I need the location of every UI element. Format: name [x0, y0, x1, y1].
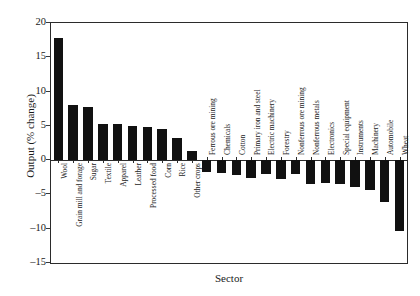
bar[interactable]: [83, 107, 92, 160]
bar-slot: [155, 23, 170, 263]
x-axis-category-label: Ferrous ore mining: [209, 98, 216, 155]
bar[interactable]: [276, 160, 285, 179]
x-axis-category-label: Rice: [179, 163, 186, 177]
x-axis-tick-mark: [311, 157, 312, 160]
y-axis-tick-labels: 20151050–5–10–15: [18, 0, 46, 296]
x-axis-category-label: Sugar: [90, 163, 97, 180]
x-axis-tick-mark: [296, 157, 297, 160]
y-axis-tick-mark: [46, 193, 50, 194]
x-axis-category-label: Machinery: [372, 123, 379, 155]
x-axis-category-label: Cotton: [239, 135, 246, 155]
x-axis-title: Sector: [50, 272, 408, 284]
y-axis-tick-mark: [46, 159, 50, 160]
x-axis-category-label: Processed food: [150, 163, 157, 208]
bar[interactable]: [128, 126, 137, 160]
x-axis-tick-mark: [236, 157, 237, 160]
chart-figure: Output (% change) 20151050–5–10–15 Secto…: [0, 0, 420, 296]
x-axis-category-label: Forestry: [283, 131, 290, 156]
y-axis-tick-mark: [46, 125, 50, 126]
y-axis-tick-mark: [46, 91, 50, 92]
y-axis-tick-mark: [46, 262, 50, 263]
x-axis-category-label: Leather: [135, 163, 142, 186]
x-axis-tick-mark: [385, 157, 386, 160]
bar-slot: [170, 23, 185, 263]
bar[interactable]: [261, 160, 270, 174]
x-axis-category-label: Apparel: [120, 163, 127, 187]
bar[interactable]: [54, 38, 63, 160]
x-axis-category-label: Corn: [165, 163, 172, 178]
x-axis-tick-mark: [325, 157, 326, 160]
bar[interactable]: [157, 129, 166, 161]
bar[interactable]: [365, 160, 374, 189]
bar-slot: [81, 23, 96, 263]
x-axis-tick-mark: [251, 157, 252, 160]
x-axis-category-label: Special equipment: [343, 100, 350, 155]
x-axis-category-label: Instruments: [357, 120, 364, 155]
y-axis-tick-mark: [46, 56, 50, 57]
bar-slot: [66, 23, 81, 263]
bar[interactable]: [232, 160, 241, 174]
x-axis-category-label: Electronics: [328, 122, 335, 155]
x-axis-tick-mark: [266, 157, 267, 160]
x-axis-tick-mark: [340, 157, 341, 160]
bar[interactable]: [68, 105, 77, 160]
y-axis-tick: 20: [36, 17, 47, 27]
bar-slot: [96, 23, 111, 263]
bar[interactable]: [306, 160, 315, 184]
x-axis-category-label: Electric machinery: [268, 99, 275, 155]
x-axis-tick-mark: [281, 157, 282, 160]
y-axis-tick: 10: [36, 86, 47, 96]
bar[interactable]: [246, 160, 255, 178]
y-axis-tick: 15: [36, 51, 47, 61]
x-axis-category-label: Nonferrous ore mining: [298, 87, 305, 155]
y-axis-tick-mark: [46, 228, 50, 229]
x-axis-category-label: Grain mill and forage: [76, 163, 83, 227]
bar[interactable]: [321, 160, 330, 183]
y-axis-tick-mark: [46, 22, 50, 23]
bar[interactable]: [380, 160, 389, 202]
bar[interactable]: [291, 160, 300, 174]
y-axis-tick: –5: [36, 188, 47, 198]
x-axis-category-label: Wheat: [402, 136, 409, 155]
x-axis-category-label: Chemicals: [224, 124, 231, 155]
bar-slot: [140, 23, 155, 263]
bar[interactable]: [113, 124, 122, 160]
x-axis-tick-mark: [400, 157, 401, 160]
x-axis-category-label: Automobile: [387, 120, 394, 155]
bar[interactable]: [172, 138, 181, 161]
x-axis-category-label: Nonferrous metals: [313, 100, 320, 155]
bar[interactable]: [143, 127, 152, 160]
x-axis-category-label: Textile: [105, 163, 112, 183]
bar-slot: [110, 23, 125, 263]
bar[interactable]: [187, 151, 196, 160]
x-axis-tick-mark: [207, 157, 208, 160]
x-axis-category-label: Other crops: [194, 163, 201, 198]
bar[interactable]: [350, 160, 359, 187]
bar-slot: [125, 23, 140, 263]
x-axis-tick-mark: [222, 157, 223, 160]
x-axis-tick-mark: [355, 157, 356, 160]
x-axis-tick-mark: [370, 157, 371, 160]
x-axis-category-label: Primary iron and steel: [254, 90, 261, 155]
x-axis-category-label: Wool: [61, 163, 68, 179]
y-axis-tick: –15: [30, 257, 46, 267]
y-axis-tick: –10: [30, 223, 46, 233]
bar[interactable]: [98, 124, 107, 160]
bar[interactable]: [395, 160, 404, 231]
bar[interactable]: [335, 160, 344, 184]
bar[interactable]: [217, 160, 226, 173]
bar[interactable]: [202, 160, 211, 172]
bar-slot: [185, 23, 200, 263]
bar-slot: [51, 23, 66, 263]
